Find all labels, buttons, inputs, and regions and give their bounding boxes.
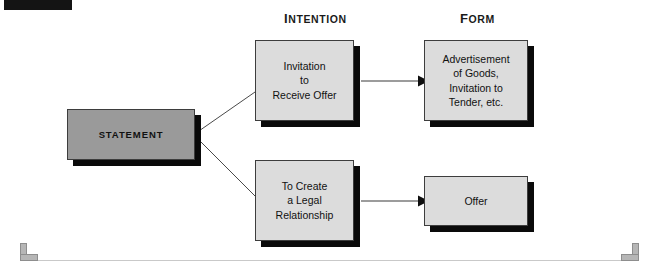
node-offer[interactable]: Offer: [424, 176, 528, 226]
connector-statement-to-legal: [196, 137, 255, 196]
node-advertisement-of-goods[interactable]: Advertisementof Goods,Invitation toTende…: [424, 40, 528, 121]
node-to-create-a-legal-relationship-label: To Createa LegalRelationship: [272, 179, 338, 222]
node-offer-label: Offer: [460, 194, 491, 208]
node-statement[interactable]: STATEMENT: [67, 109, 195, 160]
connector-statement-to-invitation: [196, 92, 255, 133]
connector-legal-to-offer: [361, 196, 429, 207]
node-invitation-to-receive-offer-label: InvitationtoReceive Offer: [269, 59, 341, 102]
connector-invitation-to-advertisement: [361, 76, 429, 87]
node-statement-label: STATEMENT: [95, 128, 168, 141]
node-advertisement-of-goods-label: Advertisementof Goods,Invitation toTende…: [438, 52, 513, 110]
diagram-page: INTENTION FORM STATEMENT InvitationtoRec…: [0, 0, 659, 275]
node-invitation-to-receive-offer[interactable]: InvitationtoReceive Offer: [255, 40, 354, 121]
node-to-create-a-legal-relationship[interactable]: To Createa LegalRelationship: [255, 160, 354, 241]
